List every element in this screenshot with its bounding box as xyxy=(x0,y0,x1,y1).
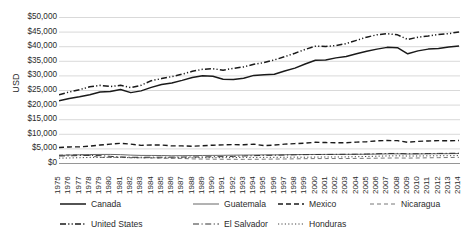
line-dashed-thin-icon xyxy=(370,199,396,209)
x-axis-tick-label: 1977 xyxy=(75,176,83,194)
y-axis-tick-label: $15,000 xyxy=(5,115,57,123)
legend-label: Guatemala xyxy=(224,199,266,209)
legend-item-guatemala[interactable]: Guatemala xyxy=(193,199,266,209)
legend-item-canada[interactable]: Canada xyxy=(60,199,121,209)
x-axis-tick-label: 1985 xyxy=(157,176,165,194)
y-axis-tick-label: $45,000 xyxy=(5,28,57,36)
line-dash-dot-dot-icon xyxy=(60,219,86,229)
y-axis-tick-label: $35,000 xyxy=(5,57,57,65)
y-axis-tick-label: $5,000 xyxy=(5,144,57,152)
x-axis-tick-label: 1990 xyxy=(208,176,216,194)
x-axis-tick-label: 1980 xyxy=(105,176,113,194)
legend-label: Mexico xyxy=(309,199,336,209)
line-solid-icon xyxy=(60,199,86,209)
y-axis-tick-label: $20,000 xyxy=(5,101,57,109)
x-axis-tick-label: 2010 xyxy=(413,176,421,194)
y-axis-tick-label: $30,000 xyxy=(5,71,57,79)
legend-row-2: United StatesEl SalvadorHonduras xyxy=(0,215,471,235)
x-axis-tick-label: 1987 xyxy=(177,176,185,194)
line-solid-thin-icon xyxy=(193,199,219,209)
x-axis-tick-label: 1976 xyxy=(64,176,72,194)
legend-label: United States xyxy=(91,219,143,229)
series-line-united-states xyxy=(59,32,459,95)
x-axis-tick-label: 2009 xyxy=(403,176,411,194)
x-axis-tick-label: 1993 xyxy=(239,176,247,194)
legend-item-nicaragua[interactable]: Nicaragua xyxy=(370,199,440,209)
legend-item-el-salvador[interactable]: El Salvador xyxy=(193,219,268,229)
gdp-per-capita-line-chart: USD $50,000$45,000$40,000$35,000$30,000$… xyxy=(0,0,471,242)
y-axis-tick-label: $10,000 xyxy=(5,130,57,138)
legend-label: Nicaragua xyxy=(401,199,440,209)
y-axis-tick-label: $25,000 xyxy=(5,86,57,94)
x-axis-tick-label: 2002 xyxy=(331,176,339,194)
x-axis-tick-label: 1979 xyxy=(95,176,103,194)
x-axis-tick-label: 2008 xyxy=(393,176,401,194)
y-axis-tick-label: $40,000 xyxy=(5,42,57,50)
x-axis-tick-label: 1984 xyxy=(147,176,155,194)
x-axis-tick-label: 1989 xyxy=(198,176,206,194)
legend-item-united-states[interactable]: United States xyxy=(60,219,143,229)
x-axis-tick-label: 1997 xyxy=(280,176,288,194)
line-dash-dot-icon xyxy=(193,219,219,229)
y-axis-tick-label: $50,000 xyxy=(5,13,57,21)
legend-label: Honduras xyxy=(309,219,346,229)
legend-item-mexico[interactable]: Mexico xyxy=(278,199,336,209)
x-axis-tick-label: 2000 xyxy=(311,176,319,194)
x-axis-tick-label: 1996 xyxy=(270,176,278,194)
x-axis-tick-label: 1992 xyxy=(229,176,237,194)
x-axis-tick-label: 2007 xyxy=(382,176,390,194)
x-axis-tick-label: 1999 xyxy=(300,176,308,194)
x-axis-tick-label: 1975 xyxy=(54,176,62,194)
x-axis-tick-label: 2012 xyxy=(434,176,442,194)
x-axis-tick-label: 1988 xyxy=(188,176,196,194)
x-axis-tick-labels: 1975197619771978197919801981198219831984… xyxy=(59,164,460,194)
x-axis-tick-label: 2013 xyxy=(444,176,452,194)
legend-row-1: CanadaGuatemalaMexicoNicaragua xyxy=(0,195,471,215)
x-axis-tick-label: 1983 xyxy=(136,176,144,194)
legend-item-honduras[interactable]: Honduras xyxy=(278,219,346,229)
x-axis-tick-label: 1986 xyxy=(167,176,175,194)
x-axis-tick-label: 2005 xyxy=(362,176,370,194)
line-dashed-icon xyxy=(278,199,304,209)
x-axis-tick-label: 2011 xyxy=(423,177,431,194)
x-axis-tick-label: 2001 xyxy=(321,176,329,194)
line-dotted-icon xyxy=(278,219,304,229)
x-axis-tick-label: 2014 xyxy=(454,176,462,194)
x-axis-tick-label: 2004 xyxy=(352,176,360,194)
y-axis-tick-label: $0 xyxy=(5,159,57,167)
series-line-canada xyxy=(59,46,459,101)
series-line-mexico xyxy=(59,141,459,148)
x-axis-tick-label: 1995 xyxy=(259,176,267,194)
chart-legend: CanadaGuatemalaMexicoNicaragua United St… xyxy=(0,195,471,242)
legend-label: El Salvador xyxy=(224,219,268,229)
x-axis-tick-label: 1978 xyxy=(85,176,93,194)
x-axis-tick-label: 1998 xyxy=(290,176,298,194)
plot-area xyxy=(59,17,460,163)
x-axis-tick-label: 1982 xyxy=(126,176,134,194)
x-axis-tick-label: 1994 xyxy=(249,176,257,194)
x-axis-tick-label: 2003 xyxy=(341,176,349,194)
legend-label: Canada xyxy=(91,199,121,209)
x-axis-tick-label: 2006 xyxy=(372,176,380,194)
x-axis-tick-label: 1981 xyxy=(116,176,124,194)
x-axis-tick-label: 1991 xyxy=(218,176,226,194)
